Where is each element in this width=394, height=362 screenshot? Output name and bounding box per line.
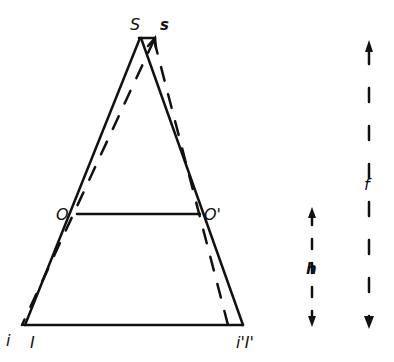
label-f: f [364, 175, 372, 194]
label-s: s [160, 16, 169, 34]
label-i-prime-I-prime: i'I' [236, 333, 254, 352]
dashed-right-ray [154, 40, 228, 325]
h-arrow-up-icon [308, 207, 316, 218]
f-arrow-down-icon [364, 316, 374, 329]
label-O-prime: O' [204, 205, 221, 224]
label-i: i [6, 331, 11, 350]
diagram-canvas: S s O O' i I i'I' h f [0, 0, 394, 362]
dashed-left-ray [22, 40, 154, 325]
label-I: I [30, 333, 35, 352]
f-arrow-up-icon [365, 40, 373, 52]
label-O: O [56, 205, 69, 224]
label-S: S [130, 15, 140, 34]
label-h: h [306, 260, 317, 278]
h-arrow-down-icon [308, 316, 316, 327]
